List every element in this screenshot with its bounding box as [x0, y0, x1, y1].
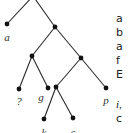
tree-node-n2	[30, 54, 35, 59]
side-text-line: f	[116, 55, 120, 66]
side-text-line: E	[116, 69, 123, 80]
tree-edge	[19, 56, 32, 89]
tree-node-n3	[79, 56, 84, 61]
side-text-line: a	[116, 41, 123, 52]
tree-diagram	[0, 0, 130, 133]
side-text-line: c	[116, 113, 122, 124]
tree-node-p	[104, 86, 109, 91]
leaf-label-k: k	[42, 127, 47, 133]
tree-node-n1	[53, 25, 58, 30]
tree-edge	[81, 58, 106, 88]
side-text-line: b	[116, 27, 123, 38]
tree-edge	[56, 87, 73, 118]
tree-node-c	[71, 116, 76, 121]
tree-node-a	[5, 22, 10, 27]
tree-node-n4	[54, 85, 59, 90]
tree-edge	[55, 27, 81, 58]
tree-edge	[7, 0, 33, 24]
tree-edge	[32, 27, 55, 56]
tree-node-g	[46, 86, 51, 91]
leaf-label-a: a	[4, 32, 10, 43]
leaf-label-g: g	[38, 92, 44, 103]
side-text-line: a	[116, 13, 123, 24]
tree-edge	[44, 87, 56, 119]
tree-edge	[56, 58, 81, 87]
tree-node-k	[42, 117, 47, 122]
tree-node-q	[17, 87, 22, 92]
tree-edge	[33, 0, 55, 27]
leaf-label-c: c	[71, 127, 76, 133]
tree-edge	[32, 56, 48, 88]
leaf-label-unknown: ?	[16, 96, 22, 107]
side-text-line: i,	[116, 99, 122, 110]
leaf-label-p: p	[103, 95, 109, 106]
